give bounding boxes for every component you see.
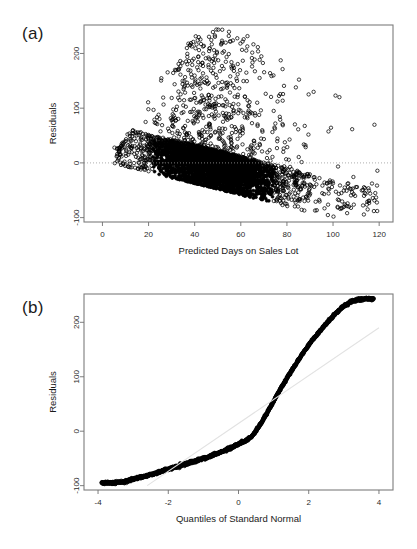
data-point <box>159 130 162 133</box>
data-point <box>165 166 168 169</box>
data-point <box>193 155 196 158</box>
data-point <box>294 86 297 89</box>
data-point <box>207 35 210 38</box>
data-point <box>223 127 226 130</box>
data-point <box>157 153 160 156</box>
data-point <box>158 117 161 120</box>
data-point <box>210 38 213 41</box>
data-point <box>250 121 253 124</box>
data-point <box>292 188 295 191</box>
x-axis-title: Quantiles of Standard Normal <box>176 513 301 524</box>
data-point <box>174 174 177 177</box>
data-point <box>321 184 324 187</box>
data-point <box>269 95 272 98</box>
data-point <box>166 147 169 150</box>
data-point <box>235 181 238 184</box>
data-point <box>338 95 341 98</box>
data-point <box>243 165 246 168</box>
data-point <box>264 174 267 177</box>
data-point <box>376 169 379 172</box>
data-point <box>201 179 204 182</box>
data-point <box>266 186 269 189</box>
data-point <box>217 81 220 84</box>
x-tick-label: 40 <box>190 230 199 239</box>
data-point <box>159 79 162 82</box>
data-point <box>152 108 155 111</box>
data-point <box>134 155 137 158</box>
data-point <box>189 69 192 72</box>
data-point <box>332 215 335 218</box>
data-point <box>249 191 252 194</box>
data-point <box>262 71 265 74</box>
data-point <box>220 157 223 160</box>
data-point <box>245 49 248 52</box>
y-tick-label: -100 <box>72 477 81 494</box>
data-point <box>166 71 169 74</box>
data-point <box>315 183 318 186</box>
data-point <box>202 173 205 176</box>
data-point <box>259 109 262 112</box>
data-point <box>314 200 317 203</box>
data-point <box>282 147 285 150</box>
data-point <box>197 48 200 51</box>
data-point <box>293 123 296 126</box>
data-point <box>343 186 346 189</box>
panel-a-plot: 020406080100120-1000100200Predicted Days… <box>0 0 417 278</box>
data-point <box>281 67 284 70</box>
data-point <box>202 52 205 55</box>
data-point <box>150 167 153 170</box>
data-point <box>166 151 169 154</box>
data-point <box>183 168 186 171</box>
data-point <box>230 60 233 63</box>
qq-reference-line <box>147 328 379 486</box>
data-point <box>177 90 180 93</box>
data-point <box>209 69 212 72</box>
data-point <box>221 28 224 31</box>
data-point <box>231 173 234 176</box>
data-point <box>218 187 221 190</box>
data-point <box>158 167 161 170</box>
data-point <box>236 62 239 65</box>
data-point <box>272 109 275 112</box>
data-point <box>374 191 377 194</box>
x-tick-label: 80 <box>282 230 291 239</box>
data-point <box>239 169 242 172</box>
data-point <box>133 137 136 140</box>
data-point <box>196 120 199 123</box>
data-point <box>253 114 256 117</box>
data-point <box>256 183 259 186</box>
data-point <box>336 198 339 201</box>
data-point <box>192 107 195 110</box>
data-point <box>225 171 228 174</box>
data-point <box>245 190 248 193</box>
y-tick-label: -100 <box>72 209 81 226</box>
data-point <box>271 195 274 198</box>
data-point <box>178 167 181 170</box>
data-point <box>241 59 244 62</box>
data-point <box>366 208 369 211</box>
data-point <box>224 189 227 192</box>
data-point <box>283 141 286 144</box>
figure-container: (a) 020406080100120-1000100200Predicted … <box>0 0 417 549</box>
data-point <box>189 73 192 76</box>
data-point <box>211 144 214 147</box>
data-point <box>292 195 295 198</box>
x-tick-label: 60 <box>236 230 245 239</box>
data-point <box>256 45 259 48</box>
x-tick-label: -4 <box>94 498 102 507</box>
panel-b: (b) -4-2024-1000100200Quantiles of Stand… <box>0 278 417 549</box>
data-point <box>160 123 163 126</box>
data-point <box>251 61 254 64</box>
data-point <box>170 169 173 172</box>
data-point <box>373 123 376 126</box>
data-point <box>208 153 211 156</box>
data-point <box>218 175 221 178</box>
data-point <box>218 70 221 73</box>
data-point <box>221 80 224 83</box>
data-point <box>157 141 160 144</box>
data-point <box>375 201 378 204</box>
data-point <box>217 103 220 106</box>
data-point <box>147 170 150 173</box>
data-point <box>175 105 178 108</box>
data-point <box>369 192 372 195</box>
